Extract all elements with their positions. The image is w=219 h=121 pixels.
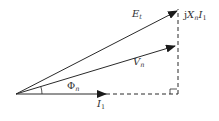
et-label-sub: t bbox=[139, 13, 142, 21]
phi-symbol: Φ bbox=[67, 80, 75, 91]
vn-label: Vn bbox=[133, 57, 144, 69]
i1-label: I1 bbox=[97, 99, 105, 111]
jxn-i1-label: jXnI1 bbox=[184, 10, 207, 22]
phi-n-label: Φn bbox=[67, 81, 79, 93]
et-label: Et bbox=[132, 9, 142, 21]
i1-sub: 1 bbox=[202, 14, 206, 22]
vn-label-sub: n bbox=[140, 61, 144, 69]
right-angle-marker bbox=[170, 89, 177, 94]
phi-sub: n bbox=[75, 85, 79, 93]
i1-label-sub: 1 bbox=[101, 103, 105, 111]
angle-arc bbox=[41, 86, 42, 94]
